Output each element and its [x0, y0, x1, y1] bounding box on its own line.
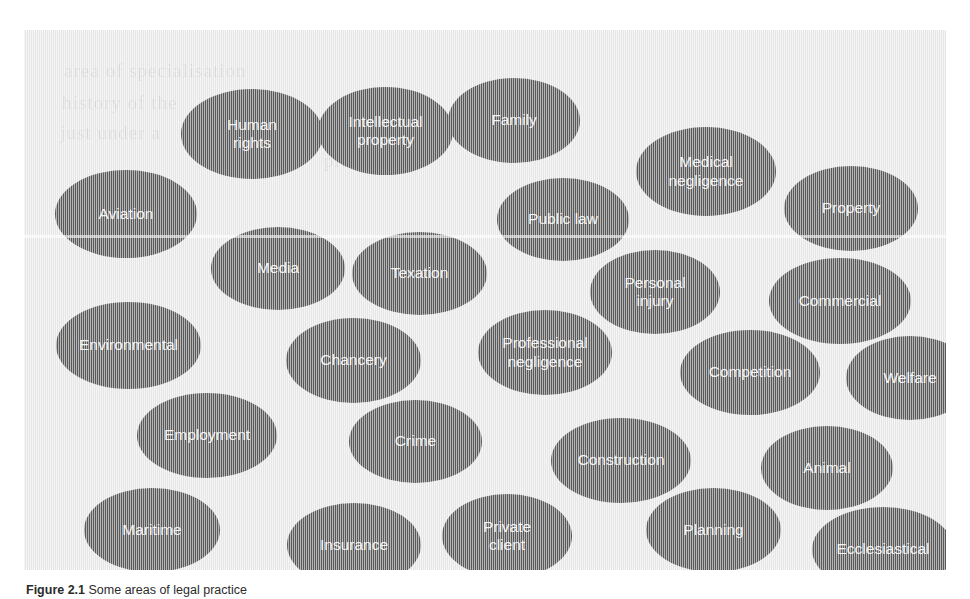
figure-caption-text: Some areas of legal practice	[89, 583, 247, 597]
practice-area-label: Planning	[683, 521, 743, 539]
practice-area-ellipse-private-client: Privateclient	[442, 494, 572, 570]
scanned-page: area of specialisationhistory of thejust…	[0, 0, 970, 599]
practice-area-ellipse-competition: Competition	[680, 330, 820, 415]
practice-area-ellipse-texation: Texation	[352, 232, 487, 315]
practice-area-label: Chancery	[320, 351, 386, 369]
practice-area-label: Family	[491, 111, 537, 129]
practice-area-ellipse-environmental: Environmental	[56, 302, 201, 389]
practice-area-ellipse-chancery: Chancery	[286, 318, 421, 403]
practice-area-ellipse-crime: Crime	[349, 400, 482, 483]
practice-area-label: Media	[257, 259, 299, 277]
practice-area-ellipse-personal-injury: Personalinjury	[590, 250, 720, 334]
ghost-text-line: just under a	[60, 122, 161, 144]
practice-area-label: Welfare	[883, 369, 936, 387]
practice-area-label: Privateclient	[483, 518, 531, 555]
practice-area-label: Humanrights	[227, 116, 277, 153]
practice-area-ellipse-maritime: Maritime	[84, 488, 220, 570]
practice-area-label: Ecclesiastical	[836, 540, 929, 558]
practice-area-ellipse-medical-negligence: Medicalnegligence	[636, 127, 776, 216]
practice-area-ellipse-property: Property	[784, 166, 918, 251]
figure-panel: area of specialisationhistory of thejust…	[24, 30, 946, 570]
practice-area-ellipse-animal: Animal	[761, 426, 893, 510]
practice-area-ellipse-planning: Planning	[646, 488, 781, 570]
practice-area-ellipse-construction: Construction	[551, 418, 691, 503]
practice-area-label: Property	[822, 199, 881, 217]
practice-area-label: Insurance	[320, 536, 388, 554]
practice-area-label: Texation	[391, 264, 449, 282]
practice-area-label: Construction	[577, 451, 664, 469]
practice-area-label: Commercial	[799, 292, 882, 310]
practice-area-label: Competition	[709, 363, 792, 381]
practice-area-ellipse-commercial: Commercial	[769, 258, 911, 344]
figure-caption: Figure 2.1 Some areas of legal practice	[26, 583, 726, 599]
practice-area-label: Crime	[395, 432, 436, 450]
practice-area-label: Professionalnegligence	[502, 334, 587, 371]
ghost-text-line: area of specialisation	[64, 60, 246, 82]
practice-area-ellipse-public-law: Public law	[497, 178, 629, 261]
figure-caption-number: Figure 2.1	[26, 583, 89, 597]
practice-area-ellipse-family: Family	[448, 78, 580, 163]
practice-area-ellipse-employment: Employment	[137, 393, 277, 478]
practice-area-label: Medicalnegligence	[669, 153, 744, 190]
practice-area-ellipse-media: Media	[211, 227, 345, 310]
practice-area-label: Employment	[164, 426, 250, 444]
practice-area-label: Animal	[803, 459, 850, 477]
practice-area-label: Personalinjury	[624, 274, 685, 311]
practice-area-ellipse-ecclesiastical: Ecclesiastical	[812, 507, 946, 570]
ghost-text-line: history of the	[62, 92, 177, 114]
practice-area-ellipse-professional-negligence: Professionalnegligence	[478, 310, 612, 395]
practice-area-label: Intellectualproperty	[348, 113, 422, 150]
practice-area-ellipse-intellectual-property: Intellectualproperty	[318, 87, 453, 175]
practice-area-ellipse-insurance: Insurance	[287, 503, 421, 570]
practice-area-label: Aviation	[99, 205, 154, 223]
practice-area-ellipse-aviation: Aviation	[55, 170, 197, 258]
practice-area-label: Public law	[528, 210, 598, 228]
practice-area-ellipse-human-rights: Humanrights	[181, 89, 323, 179]
practice-area-label: Environmental	[79, 336, 178, 354]
practice-area-ellipse-welfare: Welfare	[846, 336, 946, 420]
practice-area-label: Maritime	[122, 521, 181, 539]
